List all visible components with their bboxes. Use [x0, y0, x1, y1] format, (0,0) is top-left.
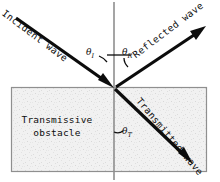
theta-reflected-subscript: R	[127, 52, 132, 60]
theta-incident-label: θI	[86, 48, 94, 59]
diagram-canvas: Incident wave Reflected wave Transmitted…	[0, 0, 220, 182]
obstacle-label-line-1: Transmissive	[16, 114, 98, 127]
theta-transmitted-subscript: T	[127, 131, 131, 139]
transmissive-obstacle-label: Transmissive obstacle	[16, 114, 98, 140]
theta-reflected-label: θR	[122, 48, 132, 59]
theta-transmitted-label: θT	[122, 127, 132, 138]
theta-incident-subscript: I	[91, 52, 94, 60]
theta-incident-arc	[99, 56, 107, 62]
obstacle-label-line-2: obstacle	[16, 127, 98, 140]
